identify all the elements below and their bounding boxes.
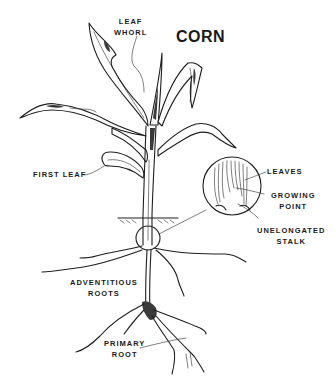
label-primary-root: PRIMARY ROOT [104, 338, 145, 360]
label-unelongated-stalk-line2: STALK [257, 236, 325, 247]
label-leaf-whorl-line2: WHORL [114, 27, 147, 38]
adventitious-root-left-lower [42, 250, 142, 272]
label-adventitious-roots-line2: ROOTS [70, 288, 138, 299]
leader-growing-point [236, 188, 264, 194]
adventitious-root-left-upper [80, 246, 142, 258]
leader-first-leaf [84, 166, 104, 175]
label-unelongated-stalk-line1: UNELONGATED [257, 225, 325, 236]
label-growing-point-line1: GROWING [271, 190, 316, 201]
label-leaves: LEAVES [267, 166, 302, 177]
lower-root-right-down [156, 316, 204, 372]
label-primary-root-line2: ROOT [104, 349, 145, 360]
primary-root-stem [146, 250, 147, 310]
label-unelongated-stalk: UNELONGATED STALK [257, 225, 325, 247]
adventitious-root-right [154, 248, 246, 262]
label-adventitious-roots: ADVENTITIOUS ROOTS [70, 277, 138, 299]
leader-primary-root [140, 338, 186, 348]
leader-leaves [245, 172, 266, 180]
label-leaf-whorl: LEAF WHORL [114, 16, 147, 38]
magnified-circle [203, 157, 261, 215]
label-growing-point: GROWING POINT [271, 190, 316, 212]
adventitious-root-right-down [156, 250, 184, 296]
leader-leaf-whorl [132, 36, 144, 92]
label-primary-root-line1: PRIMARY [104, 338, 145, 349]
right-drooping-leaf [158, 123, 236, 156]
first-leaf [102, 152, 144, 178]
label-adventitious-roots-line1: ADVENTITIOUS [70, 277, 138, 288]
diagram-title: CORN [176, 28, 225, 46]
right-upper-leaf [158, 63, 202, 126]
magnify-connector [159, 210, 206, 234]
corn-diagram: LEAF WHORL CORN FIRST LEAF LEAVES GROWIN… [0, 0, 335, 382]
label-growing-point-line2: POINT [271, 201, 316, 212]
label-first-leaf: FIRST LEAF [33, 169, 86, 180]
label-leaf-whorl-line1: LEAF [114, 16, 147, 27]
left-drooping-leaf [20, 104, 146, 136]
